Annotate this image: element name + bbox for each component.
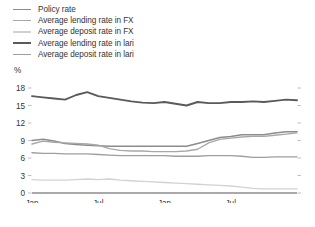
- series-line: [32, 179, 297, 189]
- plot-area: 0369121518 Jan2020Jul2020Jan2021Jul2021: [0, 78, 315, 203]
- legend-swatch-deposit-fx: [13, 31, 31, 32]
- legend-swatch-deposit-lari: [13, 54, 31, 55]
- series-line: [32, 92, 297, 105]
- y-tick-label: 9: [20, 137, 25, 146]
- legend-item-deposit-lari: Average deposit rate in lari: [13, 49, 263, 60]
- x-tick-label-month: Jul: [93, 199, 104, 203]
- x-axis-ticks: Jan2020Jul2020Jan2021Jul2021: [23, 199, 240, 203]
- interest-rates-chart: Policy rate Average lending rate in FX A…: [0, 0, 315, 227]
- legend-label-deposit-lari: Average deposit rate in lari: [38, 49, 134, 60]
- legend-swatch-policy-rate: [13, 9, 31, 11]
- y-tick-label: 3: [20, 172, 25, 181]
- x-tick-label-month: Jan: [158, 199, 172, 203]
- legend-swatch-lending-fx: [13, 20, 31, 21]
- series-line: [32, 132, 297, 147]
- legend-item-policy-rate: Policy rate: [13, 4, 263, 15]
- x-tick-label-month: Jan: [25, 199, 39, 203]
- y-tick-label: 6: [20, 154, 25, 163]
- legend-item-lending-lari: Average lending rate in lari: [13, 38, 263, 49]
- y-tick-label: 15: [16, 102, 26, 111]
- chart-legend: Policy rate Average lending rate in FX A…: [13, 4, 263, 60]
- series-line: [32, 153, 297, 158]
- legend-item-lending-fx: Average lending rate in FX: [13, 15, 263, 26]
- legend-item-deposit-fx: Average deposit rate in FX: [13, 26, 263, 37]
- legend-label-lending-lari: Average lending rate in lari: [38, 38, 134, 49]
- chart-svg: 0369121518 Jan2020Jul2020Jan2021Jul2021: [0, 78, 315, 203]
- legend-label-deposit-fx: Average deposit rate in FX: [38, 26, 134, 37]
- legend-label-lending-fx: Average lending rate in FX: [38, 15, 134, 26]
- y-tick-label: 12: [16, 119, 26, 128]
- y-tick-label: 18: [16, 84, 26, 93]
- chart-series-group: [32, 92, 297, 189]
- x-tick-label-month: Jul: [226, 199, 237, 203]
- series-line: [32, 133, 297, 152]
- legend-swatch-lending-lari: [13, 42, 31, 44]
- legend-label-policy-rate: Policy rate: [38, 4, 76, 15]
- y-axis-unit-label: %: [14, 66, 21, 76]
- y-tick-label: 0: [20, 189, 25, 198]
